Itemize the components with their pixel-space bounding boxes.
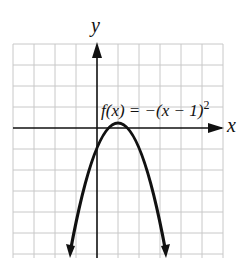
x-axis-label: x <box>227 114 236 137</box>
grid <box>13 44 223 258</box>
y-axis-label: y <box>91 14 100 37</box>
left-arrow-icon <box>66 244 75 258</box>
function-label: f(x) = −(x − 1)2 <box>101 98 209 121</box>
x-axis-arrow-icon <box>208 123 224 133</box>
function-exponent: 2 <box>203 98 209 112</box>
function-text: f(x) = −(x − 1) <box>101 101 203 120</box>
right-arrow-icon <box>161 244 170 258</box>
graph <box>0 0 238 258</box>
